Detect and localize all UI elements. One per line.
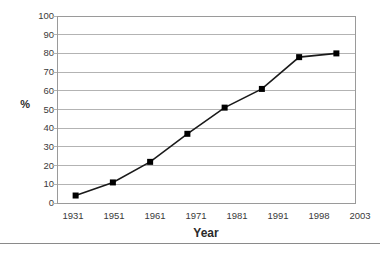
data-point-marker bbox=[184, 131, 190, 137]
footer-divider bbox=[0, 243, 380, 244]
data-point-marker bbox=[147, 159, 153, 165]
data-point-marker bbox=[110, 179, 116, 185]
data-point-marker bbox=[259, 86, 265, 92]
plot-area bbox=[0, 0, 380, 256]
chart-figure: % Year 100 90 80 70 60 50 40 30 20 10 0 … bbox=[0, 0, 380, 256]
data-point-marker bbox=[222, 105, 228, 111]
data-point-marker bbox=[333, 50, 339, 56]
data-point-marker bbox=[296, 54, 302, 60]
data-point-marker bbox=[73, 193, 79, 199]
